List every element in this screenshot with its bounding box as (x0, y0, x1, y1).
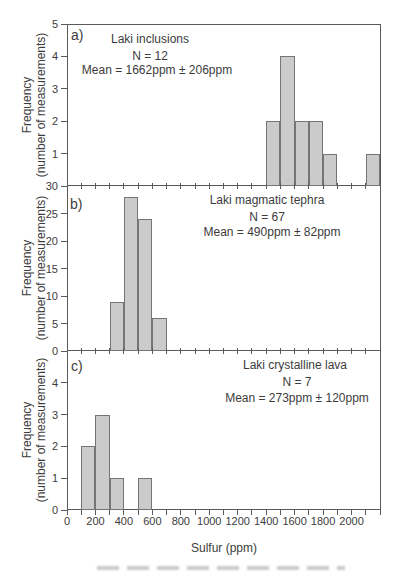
x-tick (109, 183, 110, 189)
x-tick (81, 348, 82, 354)
x-tick (95, 348, 96, 354)
panel-a-tag: a) (71, 27, 83, 43)
x-tick (323, 348, 324, 354)
y-tick-label: 15 (30, 263, 58, 275)
y-tick-label: 4 (30, 50, 58, 62)
x-tick-label: 2000 (334, 515, 370, 527)
panel-b-n-count: N = 67 (249, 211, 285, 224)
y-tick-label: 3 (30, 83, 58, 95)
y-tick (61, 186, 67, 187)
x-tick (351, 348, 352, 354)
x-tick (237, 183, 238, 189)
y-tick (61, 268, 67, 269)
histogram-bar (124, 197, 138, 351)
y-tick-label: 1 (30, 148, 58, 160)
y-tick (61, 478, 67, 479)
y-tick (61, 213, 67, 214)
panel-b-tag: b) (70, 196, 82, 212)
y-tick (61, 121, 67, 122)
x-tick (280, 183, 281, 189)
histogram-bar (95, 415, 109, 510)
y-tick-label: 2 (30, 115, 58, 127)
x-tick (294, 183, 295, 189)
x-tick (166, 348, 167, 354)
x-tick (166, 183, 167, 189)
y-tick-label: 25 (30, 208, 58, 220)
histogram-bar (366, 154, 380, 186)
histogram-bar (266, 121, 280, 186)
panel-a-title: Laki inclusions (111, 33, 189, 46)
histogram-bar (110, 302, 124, 352)
y-tick-label: 30 (30, 180, 58, 192)
x-tick (308, 348, 309, 354)
panel-c-n-count: N = 7 (282, 376, 311, 389)
panel-b-mean: Mean = 490ppm ± 82ppm (203, 226, 340, 239)
histogram-bar (110, 478, 124, 510)
x-tick (266, 183, 267, 189)
x-tick (123, 348, 124, 354)
x-tick (351, 183, 352, 189)
x-tick (337, 183, 338, 189)
x-tick (195, 183, 196, 189)
x-tick (308, 183, 309, 189)
y-tick (61, 414, 67, 415)
y-tick (61, 241, 67, 242)
x-tick (237, 348, 238, 354)
x-tick (152, 183, 153, 189)
x-tick (380, 510, 381, 515)
histogram-bar (152, 318, 166, 351)
histogram-bar (323, 154, 337, 186)
panel-c-mean: Mean = 273ppm ± 120ppm (225, 392, 369, 405)
x-tick (251, 183, 252, 189)
histogram-bar (138, 478, 152, 510)
y-tick-label: 20 (30, 235, 58, 247)
x-tick (67, 348, 68, 354)
x-tick (323, 183, 324, 189)
y-tick-label: 4 (30, 377, 58, 389)
histogram-bar (81, 446, 95, 510)
y-tick-label: 1 (30, 472, 58, 484)
x-tick (152, 348, 153, 354)
x-tick (266, 348, 267, 354)
x-tick (223, 183, 224, 189)
y-tick-label: 10 (30, 290, 58, 302)
histogram-bar (280, 56, 294, 186)
x-tick (95, 183, 96, 189)
x-axis-title: Sulfur (ppm) (191, 541, 257, 555)
y-tick (61, 24, 67, 25)
x-tick (123, 183, 124, 189)
x-tick (365, 348, 366, 354)
x-tick (280, 348, 281, 354)
x-tick (109, 348, 110, 354)
x-tick (81, 183, 82, 189)
y-tick (61, 382, 67, 383)
panel-a-n-count: N = 12 (132, 50, 168, 63)
x-tick (337, 348, 338, 354)
histogram-bar (295, 121, 309, 186)
y-tick (61, 153, 67, 154)
histogram-bar (138, 219, 152, 351)
x-tick (209, 183, 210, 189)
x-tick (223, 348, 224, 354)
x-tick (195, 348, 196, 354)
x-tick (180, 348, 181, 354)
x-tick (180, 183, 181, 189)
x-tick (380, 348, 381, 354)
y-tick-label: 2 (30, 440, 58, 452)
x-tick (365, 183, 366, 189)
panel-c-tag: c) (71, 358, 83, 374)
y-tick-label: 3 (30, 409, 58, 421)
y-tick (61, 446, 67, 447)
x-tick (251, 348, 252, 354)
y-tick-label: 5 (30, 18, 58, 30)
histogram-bar (309, 121, 323, 186)
x-tick (138, 183, 139, 189)
y-tick-label: 5 (30, 318, 58, 330)
y-tick-label: 0 (30, 345, 58, 357)
x-tick (294, 348, 295, 354)
figure-sulfur-histograms: a) Laki inclusions N = 12 Mean = 1662ppm… (0, 0, 400, 571)
x-tick (380, 183, 381, 189)
y-tick (61, 296, 67, 297)
panel-c-title: Laki crystalline lava (243, 359, 347, 372)
y-tick (61, 56, 67, 57)
